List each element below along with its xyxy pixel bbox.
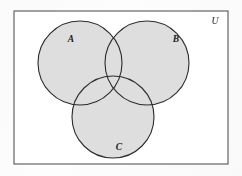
universal-set-label: U — [212, 16, 220, 26]
venn-diagram-canvas: A B C U — [0, 0, 242, 176]
set-label-a: A — [67, 34, 74, 44]
set-label-c: C — [116, 142, 123, 152]
set-label-b: B — [172, 34, 179, 44]
venn-diagram-figure: A B C U — [0, 0, 242, 176]
